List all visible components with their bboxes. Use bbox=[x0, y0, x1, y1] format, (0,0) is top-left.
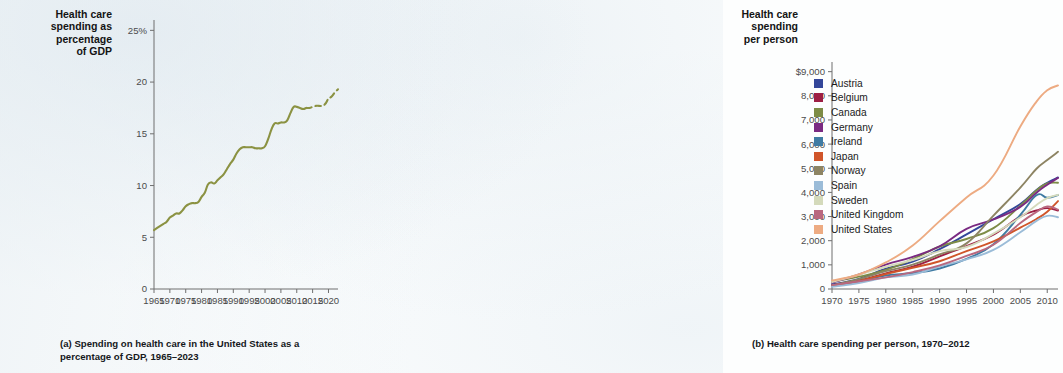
legend-swatch-icon bbox=[814, 108, 823, 117]
legend-item-germany: Germany bbox=[814, 120, 944, 135]
legend-label: Austria bbox=[831, 78, 863, 89]
y-tick-label: 0 bbox=[820, 283, 825, 294]
panel-b-axis-title: Health care spending per person bbox=[700, 8, 798, 45]
legend-swatch-icon bbox=[814, 196, 823, 205]
legend-swatch-icon bbox=[814, 181, 823, 190]
legend-swatch-icon bbox=[814, 137, 823, 146]
panel-a-caption-tag: (a) bbox=[60, 337, 72, 350]
legend-swatch-icon bbox=[814, 210, 823, 219]
legend-label: Norway bbox=[831, 165, 866, 176]
legend-swatch-icon bbox=[814, 152, 823, 161]
legend-swatch-icon bbox=[814, 123, 823, 132]
legend-swatch-icon bbox=[814, 166, 823, 175]
legend-item-japan: Japan bbox=[814, 149, 944, 164]
panel-a-caption: (a) Spending on health care in the Unite… bbox=[60, 337, 350, 363]
x-tick-label: 2005 bbox=[1010, 295, 1031, 306]
panel-a: Health care spending as percentage of GD… bbox=[0, 0, 360, 373]
panel-a-axis-title: Health care spending as percentage of GD… bbox=[8, 8, 112, 58]
x-tick-label: 2010 bbox=[1037, 295, 1058, 306]
x-tick-label: 1985 bbox=[902, 295, 923, 306]
legend-item-austria: Austria bbox=[814, 76, 944, 91]
legend-item-canada: Canada bbox=[814, 105, 944, 120]
x-tick-label: 2000 bbox=[983, 295, 1004, 306]
legend-label: United Kingdom bbox=[831, 209, 904, 220]
y-tick-label: 10 bbox=[136, 180, 147, 191]
legend-label: United States bbox=[831, 224, 892, 235]
panel-b-caption-text: Health care spending per person, 1970–20… bbox=[767, 338, 970, 349]
legend-item-spain: Spain bbox=[814, 178, 944, 193]
legend-label: Belgium bbox=[831, 92, 868, 103]
x-tick-label: 1990 bbox=[929, 295, 950, 306]
legend-swatch-icon bbox=[814, 79, 823, 88]
legend-item-norway: Norway bbox=[814, 164, 944, 179]
y-tick-label: 1,000 bbox=[801, 259, 825, 270]
x-tick-label: 1980 bbox=[875, 295, 896, 306]
legend-item-united-kingdom: United Kingdom bbox=[814, 207, 944, 222]
x-tick-label: 1975 bbox=[848, 295, 869, 306]
panel-a-plot-area: 0510152025%19651970197519801985199019952… bbox=[118, 12, 346, 315]
panel-b-caption: (b) Health care spending per person, 197… bbox=[752, 337, 1063, 350]
y-tick-label: 5 bbox=[142, 232, 147, 243]
legend-item-united-states: United States bbox=[814, 222, 944, 237]
y-tick-label: 2,000 bbox=[801, 235, 825, 246]
legend-label: Spain bbox=[831, 180, 857, 191]
panel-a-caption-text: Spending on health care in the United St… bbox=[60, 338, 299, 362]
legend-swatch-icon bbox=[814, 225, 823, 234]
x-tick-label: 1995 bbox=[956, 295, 977, 306]
legend-label: Germany bbox=[831, 122, 873, 133]
panel-b-caption-tag: (b) bbox=[752, 337, 764, 350]
legend-label: Japan bbox=[831, 151, 859, 162]
series-line-united-states-projected- bbox=[306, 89, 338, 108]
panel-a-chart: 0510152025%19651970197519801985199019952… bbox=[118, 12, 346, 315]
y-tick-label: 15 bbox=[136, 128, 147, 139]
x-tick-label: 1970 bbox=[821, 295, 842, 306]
legend-label: Canada bbox=[831, 107, 867, 118]
y-tick-label: 0 bbox=[142, 283, 147, 294]
panel-b-legend: AustriaBelgiumCanadaGermanyIrelandJapanN… bbox=[814, 76, 944, 237]
legend-item-sweden: Sweden bbox=[814, 193, 944, 208]
panel-b: Health care spending per person 01,0002,… bbox=[352, 0, 723, 373]
legend-label: Sweden bbox=[831, 195, 868, 206]
series-line-united-states bbox=[154, 106, 306, 230]
y-tick-label: 20 bbox=[136, 76, 147, 87]
y-tick-label: 25% bbox=[128, 25, 148, 36]
legend-item-belgium: Belgium bbox=[814, 91, 944, 106]
legend-swatch-icon bbox=[814, 93, 823, 102]
legend-item-ireland: Ireland bbox=[814, 134, 944, 149]
legend-label: Ireland bbox=[831, 136, 862, 147]
x-tick-label: 2020 bbox=[318, 295, 339, 306]
